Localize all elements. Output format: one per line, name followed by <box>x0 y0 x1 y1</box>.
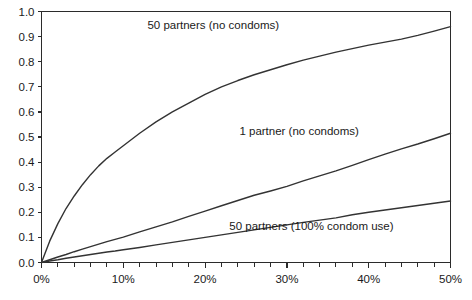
x-tick-label: 50% <box>439 273 462 285</box>
y-tick-label: 0.3 <box>19 181 35 193</box>
x-axis-ticks <box>42 263 451 268</box>
y-tick-label: 0.0 <box>19 257 35 269</box>
series-annotation-3: 50 partners (100% condom use) <box>229 220 393 232</box>
chart-container: 0.00.10.20.30.40.50.60.70.80.91.0 0%10%2… <box>0 0 472 300</box>
y-tick-label: 0.8 <box>19 56 35 68</box>
y-axis-tick-labels: 0.00.10.20.30.40.50.60.70.80.91.0 <box>19 6 36 269</box>
x-tick-label: 40% <box>357 273 380 285</box>
y-tick-label: 0.6 <box>19 106 35 118</box>
x-tick-label: 20% <box>194 273 217 285</box>
y-tick-label: 0.9 <box>19 31 35 43</box>
series-annotation-1: 50 partners (no condoms) <box>147 19 279 31</box>
y-tick-label: 0.7 <box>19 81 35 93</box>
series-line-2 <box>42 133 451 262</box>
x-tick-label: 30% <box>275 273 298 285</box>
y-tick-label: 1.0 <box>19 6 35 18</box>
x-tick-label: 10% <box>112 273 135 285</box>
x-axis-tick-labels: 0%10%20%30%40%50% <box>33 273 462 285</box>
x-tick-label: 0% <box>33 273 50 285</box>
series-annotation-2: 1 partner (no condoms) <box>239 125 359 137</box>
y-tick-label: 0.1 <box>19 231 35 243</box>
y-tick-label: 0.2 <box>19 206 35 218</box>
line-chart: 0.00.10.20.30.40.50.60.70.80.91.0 0%10%2… <box>0 0 472 300</box>
y-tick-label: 0.5 <box>19 131 35 143</box>
series-annotations: 50 partners (no condoms)1 partner (no co… <box>147 19 393 232</box>
y-tick-label: 0.4 <box>19 156 36 168</box>
